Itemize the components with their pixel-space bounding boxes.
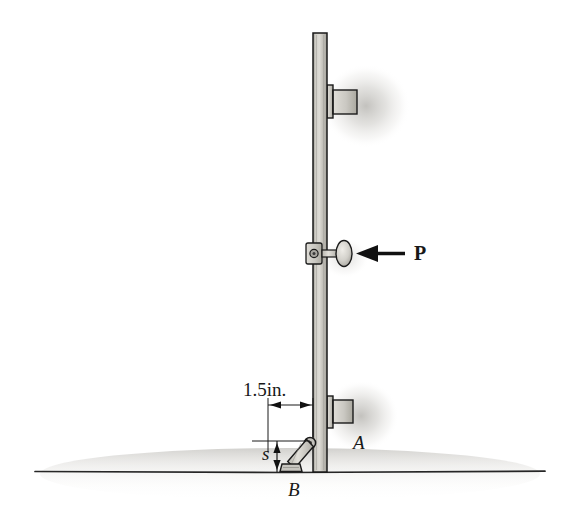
bracket-bottom: [327, 396, 353, 428]
dimension-label-1-5in: 1.5in.: [243, 380, 286, 399]
point-label-a: A: [353, 433, 365, 452]
force-label-p: P: [414, 243, 426, 263]
base-support-b: [280, 464, 302, 472]
point-label-b: B: [288, 480, 300, 499]
figure-canvas: [0, 0, 570, 512]
dimension-label-s: s: [262, 444, 269, 463]
bracket-top: [327, 85, 357, 118]
mechanics-figure: 1.5in. s A B P: [0, 0, 570, 512]
